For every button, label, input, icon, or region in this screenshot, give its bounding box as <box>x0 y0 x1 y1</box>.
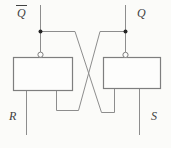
right-gate-inverter-bubble-icon <box>123 52 128 57</box>
qbar-junction-dot-icon <box>39 30 43 34</box>
label-s: S <box>151 110 157 122</box>
label-r: R <box>9 110 16 122</box>
sr-latch-diagram: Q Q R S <box>0 0 171 148</box>
circuit-canvas <box>0 0 171 148</box>
right-gate-body <box>104 58 161 89</box>
label-q-bar: Q <box>16 5 27 19</box>
left-gate-body <box>14 58 73 91</box>
q-junction-dot-icon <box>124 30 128 34</box>
label-q: Q <box>137 7 146 19</box>
left-gate-inverter-bubble-icon <box>38 52 43 57</box>
q-bar-letter: Q <box>16 5 27 19</box>
